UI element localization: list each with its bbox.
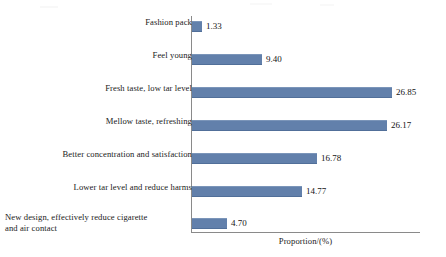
bar-row: Lower tar level and reduce harms 14.77: [0, 181, 446, 214]
bar-row: Fashion pack 1.33: [0, 16, 446, 49]
bar-lower-tar-level-and-reduce-harms: [192, 186, 302, 197]
plot-area: Fashion pack 1.33 Feel young 9.40 Fresh …: [0, 0, 446, 257]
bar-value-label: 9.40: [266, 54, 282, 65]
bar-mellow-taste-refreshing: [192, 120, 387, 131]
bar-value-label: 26.85: [396, 87, 416, 98]
category-label: Feel young: [6, 50, 192, 61]
bar-row: Feel young 9.40: [0, 49, 446, 82]
category-label: New design, effectively reduce cigarette…: [5, 212, 191, 233]
category-label: Fresh taste, low tar level: [6, 83, 192, 94]
bar-value-label: 1.33: [206, 21, 222, 32]
bar-row: Mellow taste, refreshing 26.17: [0, 115, 446, 148]
bar-row: Fresh taste, low tar level 26.85: [0, 82, 446, 115]
scan-artifact: [250, 3, 272, 5]
scan-artifact: [320, 4, 334, 6]
bar-better-concentration-and-satisfaction: [192, 153, 317, 164]
bar-value-label: 4.70: [231, 218, 247, 229]
category-label: Lower tar level and reduce harms: [6, 182, 192, 193]
category-label: Mellow taste, refreshing: [6, 116, 192, 127]
bar-value-label: 14.77: [306, 186, 326, 197]
bar-row: Better concentration and satisfaction 16…: [0, 148, 446, 181]
category-label: Better concentration and satisfaction: [6, 149, 192, 160]
bar-fresh-taste-low-tar-level: [192, 87, 392, 98]
scan-artifact: [40, 6, 58, 8]
bar-fashion-pack: [192, 21, 202, 32]
bar-feel-young: [192, 54, 262, 65]
bar-chart: Fashion pack 1.33 Feel young 9.40 Fresh …: [0, 0, 446, 257]
bar-value-label: 26.17: [391, 120, 411, 131]
x-axis-title: Proportion/(%): [191, 236, 420, 246]
bar-value-label: 16.78: [321, 153, 341, 164]
category-label: Fashion pack: [6, 17, 192, 28]
bar-new-design-effectively-reduce-cigarette-and-air-contact: [192, 218, 227, 229]
